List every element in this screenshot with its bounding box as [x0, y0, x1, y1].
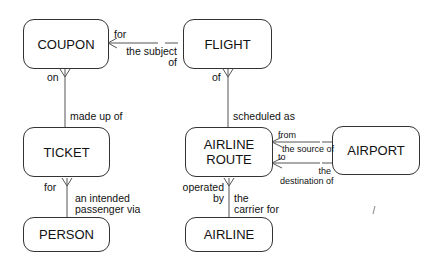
label-airport-source-of: the source of	[282, 144, 331, 154]
entity-ticket-label: TICKET	[43, 145, 89, 160]
entity-person[interactable]: PERSON	[23, 217, 110, 252]
label-airline-carrier-for-2: carrier for	[234, 204, 279, 215]
label-airport-destination-of: the destination of	[280, 166, 331, 186]
label-coupon-on: on	[47, 72, 59, 83]
entity-airline-label: AIRLINE	[204, 227, 255, 242]
label-ticket-for: for	[44, 182, 56, 193]
entity-coupon-label: COUPON	[37, 37, 94, 52]
entity-flight-label: FLIGHT	[204, 37, 250, 52]
label-ticket-made-up-of: made up of	[70, 111, 123, 122]
label-airport-destination-of-2: destination of	[280, 176, 331, 186]
label-route-scheduled-as: scheduled as	[233, 111, 295, 122]
label-coupon-for: for	[114, 29, 126, 40]
label-route-from: from	[278, 130, 296, 140]
entity-airport-label: AIRPORT	[347, 143, 405, 158]
label-flight-of: of	[212, 72, 221, 83]
entity-airport[interactable]: AIRPORT	[332, 126, 420, 175]
label-flight-subject-of: the subject of	[120, 46, 177, 68]
entity-airline-route[interactable]: AIRLINE ROUTE	[185, 127, 273, 177]
entity-coupon[interactable]: COUPON	[23, 19, 109, 69]
entity-airline-route-label-2: ROUTE	[206, 152, 252, 167]
label-flight-subject-of-2: of	[120, 57, 177, 68]
entity-flight[interactable]: FLIGHT	[183, 19, 272, 69]
entity-airline-route-label-1: AIRLINE	[204, 137, 255, 152]
label-person-intended-passenger-2: passenger via	[75, 204, 140, 215]
label-route-operated-by: operated by	[180, 182, 224, 204]
entity-airline[interactable]: AIRLINE	[185, 217, 273, 252]
label-airline-carrier-for: the carrier for	[234, 193, 279, 215]
label-route-operated-by-2: by	[180, 193, 224, 204]
label-airport-destination-of-1: the	[280, 166, 331, 176]
label-route-to: to	[278, 152, 286, 162]
label-person-intended-passenger: an intended passenger via	[75, 193, 140, 215]
entity-ticket[interactable]: TICKET	[23, 127, 110, 177]
entity-person-label: PERSON	[39, 227, 94, 242]
